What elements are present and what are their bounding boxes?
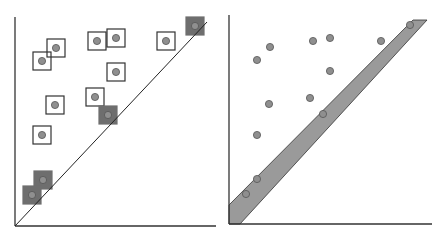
data-point	[306, 94, 313, 101]
data-point	[309, 37, 316, 44]
data-point	[253, 131, 260, 138]
data-point	[326, 34, 333, 41]
data-point	[266, 43, 273, 50]
data-point	[319, 110, 326, 117]
data-point	[253, 175, 260, 182]
data-point	[326, 67, 333, 74]
diagonal-band	[229, 20, 427, 224]
diagram-stage	[0, 0, 446, 239]
data-point	[265, 100, 272, 107]
right-panel-band-diagram	[0, 0, 446, 239]
data-point	[242, 190, 249, 197]
data-point	[377, 37, 384, 44]
data-point	[406, 21, 413, 28]
data-point	[253, 56, 260, 63]
